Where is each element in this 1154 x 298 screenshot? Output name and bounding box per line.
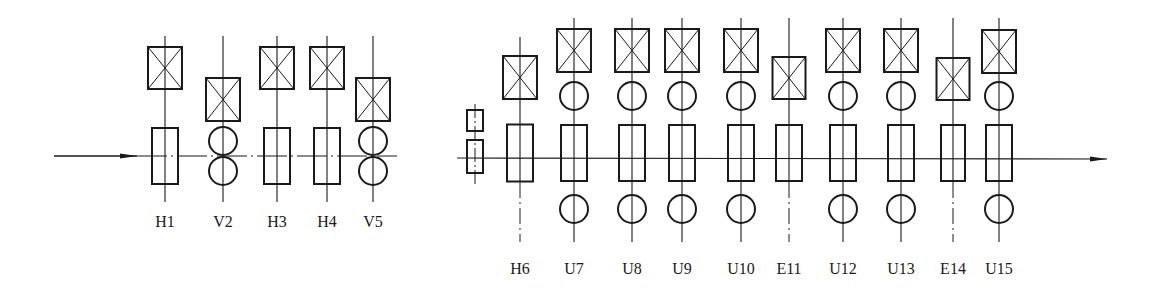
stand-label: V5 <box>363 213 383 230</box>
stand-e14: E14 <box>937 18 970 277</box>
stand-label: U12 <box>829 260 857 277</box>
stand-label: U7 <box>564 260 584 277</box>
stand-u12: U12 <box>826 18 860 277</box>
stand-u15: U15 <box>982 18 1016 277</box>
mill-layout-diagram: H1V2H3H4V5H6U7U8U9U10E11U12U13E14U15 <box>0 0 1154 298</box>
stand-label: U15 <box>985 260 1013 277</box>
stand-label: U13 <box>887 260 915 277</box>
small-edger <box>467 104 483 185</box>
stand-label: H3 <box>267 213 287 230</box>
stand-u13: U13 <box>884 18 918 277</box>
stand-h4: H4 <box>310 36 344 230</box>
stand-u10: U10 <box>724 18 758 277</box>
stand-label: H1 <box>155 213 175 230</box>
exit-arrow-line <box>457 158 1107 159</box>
stand-label: H6 <box>510 260 530 277</box>
stand-u7: U7 <box>557 18 591 277</box>
stand-h1: H1 <box>148 36 182 230</box>
stand-label: V2 <box>213 213 233 230</box>
stand-label: E11 <box>776 260 801 277</box>
stand-v2: V2 <box>206 36 240 230</box>
stand-h3: H3 <box>260 36 294 230</box>
stand-label: U8 <box>622 260 642 277</box>
left-stand-group: H1V2H3H4V5 <box>54 36 397 230</box>
stand-label: U10 <box>727 260 755 277</box>
stand-e11: E11 <box>773 18 806 277</box>
stand-label: E14 <box>940 260 966 277</box>
stand-label: U9 <box>672 260 692 277</box>
stand-h6: H6 <box>503 37 537 277</box>
stand-label: H4 <box>317 213 337 230</box>
stand-u8: U8 <box>615 18 649 277</box>
right-stand-group: H6U7U8U9U10E11U12U13E14U15 <box>457 18 1107 277</box>
stand-v5: V5 <box>356 36 390 230</box>
stand-u9: U9 <box>665 18 699 277</box>
